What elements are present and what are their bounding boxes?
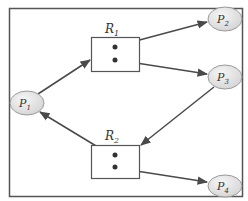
process-subscript: 4 bbox=[223, 187, 228, 195]
process-p4: P4 bbox=[208, 175, 242, 197]
edge-p3-r2 bbox=[141, 87, 214, 145]
process-p2: P2 bbox=[208, 7, 242, 31]
resource-r2: R2 bbox=[92, 129, 140, 179]
instance-dot bbox=[113, 165, 118, 170]
process-subscript: 3 bbox=[224, 78, 229, 86]
resource-label: R bbox=[104, 22, 114, 36]
instance-dot bbox=[113, 153, 118, 158]
resource-label: R bbox=[104, 129, 114, 143]
resource-allocation-graph: R1 R2 P1 P2 P3 P4 bbox=[0, 0, 248, 201]
resource-r1: R1 bbox=[92, 22, 140, 72]
instance-dot bbox=[113, 45, 118, 50]
process-subscript: 1 bbox=[26, 104, 30, 112]
svg-text:R1: R1 bbox=[104, 22, 119, 38]
process-p3: P3 bbox=[208, 65, 242, 89]
process-p1: P1 bbox=[10, 91, 44, 115]
edge-p1-r1 bbox=[38, 60, 90, 94]
resource-subscript: 1 bbox=[114, 29, 119, 38]
svg-text:R2: R2 bbox=[104, 129, 119, 145]
process-subscript: 2 bbox=[223, 20, 229, 28]
instance-dot bbox=[113, 58, 118, 63]
resource-subscript: 2 bbox=[113, 136, 119, 145]
